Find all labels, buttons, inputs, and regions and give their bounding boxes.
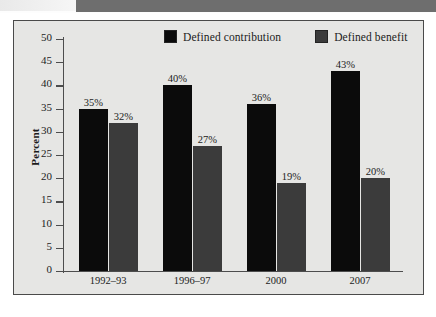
y-tick-10: 10 bbox=[56, 225, 63, 226]
bar: 43% bbox=[331, 71, 360, 271]
chart-figure: Defined contribution Defined benefit Per… bbox=[13, 20, 424, 295]
y-tick-label-30: 30 bbox=[41, 124, 52, 136]
x-category-label: 2007 bbox=[318, 275, 402, 286]
bar-value-label: 36% bbox=[252, 92, 271, 103]
y-tick-30: 30 bbox=[56, 132, 63, 133]
bar: 27% bbox=[193, 146, 222, 271]
x-category-label: 1996–97 bbox=[150, 275, 234, 286]
x-axis-line bbox=[63, 271, 403, 272]
banner-bar bbox=[76, 0, 436, 12]
bar: 40% bbox=[163, 85, 192, 271]
x-category-label: 1992–93 bbox=[66, 275, 150, 286]
y-tick-20: 20 bbox=[56, 178, 63, 179]
y-tick-label-45: 45 bbox=[41, 54, 52, 66]
y-tick-5: 5 bbox=[56, 248, 63, 249]
page-top-banner bbox=[0, 0, 436, 13]
banner-fade bbox=[0, 0, 76, 11]
bar-value-label: 27% bbox=[198, 134, 217, 145]
y-tick-label-35: 35 bbox=[41, 101, 52, 113]
bar: 19% bbox=[277, 183, 306, 271]
bar-value-label: 35% bbox=[84, 97, 103, 108]
y-tick-40: 40 bbox=[56, 85, 63, 86]
y-tick-label-10: 10 bbox=[41, 217, 52, 229]
bar: 32% bbox=[109, 123, 138, 271]
bar-value-label: 43% bbox=[336, 59, 355, 70]
y-tick-25: 25 bbox=[56, 155, 63, 156]
y-tick-label-40: 40 bbox=[41, 77, 52, 89]
bar-value-label: 20% bbox=[366, 166, 385, 177]
y-tick-label-20: 20 bbox=[41, 170, 52, 182]
y-tick-label-50: 50 bbox=[41, 31, 52, 43]
y-tick-50: 50 bbox=[56, 39, 63, 40]
y-tick-label-15: 15 bbox=[41, 193, 52, 205]
y-tick-0: 0 bbox=[56, 271, 63, 272]
y-tick-label-0: 0 bbox=[47, 263, 53, 275]
y-axis-line bbox=[63, 37, 64, 273]
y-tick-15: 15 bbox=[56, 201, 63, 202]
bar-value-label: 32% bbox=[114, 111, 133, 122]
bar: 35% bbox=[79, 109, 108, 271]
y-tick-label-25: 25 bbox=[41, 147, 52, 159]
bar-value-label: 19% bbox=[282, 171, 301, 182]
bar-value-label: 40% bbox=[168, 73, 187, 84]
plot-area: 50454035302520151050 35%32%40%27%36%19%4… bbox=[14, 21, 425, 296]
bar: 36% bbox=[247, 104, 276, 271]
x-category-label: 2000 bbox=[234, 275, 318, 286]
y-tick-label-5: 5 bbox=[47, 240, 53, 252]
bar: 20% bbox=[361, 178, 390, 271]
y-tick-35: 35 bbox=[56, 109, 63, 110]
y-tick-45: 45 bbox=[56, 62, 63, 63]
